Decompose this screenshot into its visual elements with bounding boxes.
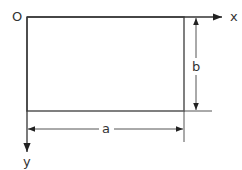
- rectangle-diagram: O x y a b: [0, 0, 242, 170]
- rectangle: [27, 17, 184, 111]
- y-axis-label: y: [23, 154, 31, 169]
- origin-label: O: [12, 9, 22, 24]
- height-label-b: b: [192, 59, 200, 74]
- width-label-a: a: [102, 121, 110, 136]
- x-axis-label: x: [230, 9, 238, 24]
